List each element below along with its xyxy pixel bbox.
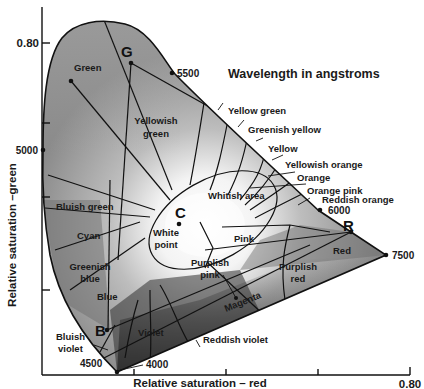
wavelength-4000: 4000 — [146, 359, 169, 370]
wavelength-4500: 4500 — [80, 358, 103, 369]
label-whitish-area: Whitish area — [208, 190, 265, 201]
wavelength-5500: 5500 — [177, 68, 200, 79]
label-pink: Pink — [234, 233, 255, 244]
point-C: C — [175, 204, 186, 221]
y-axis-label: Relative saturation –green — [6, 163, 18, 307]
label-yellowish-orange: Yellowish orange — [285, 159, 363, 170]
point-B: B — [95, 322, 106, 339]
label-white-point-2: point — [154, 239, 178, 250]
label-purplish-red-2: red — [291, 273, 306, 284]
label-orange: Orange — [297, 172, 330, 183]
chromaticity-diagram: 0.80 0.80 Relative saturation – red Rela… — [0, 0, 424, 389]
label-white-point-1: White — [153, 227, 179, 238]
x-tick-0-80: 0.80 — [399, 378, 421, 389]
label-bluish-green: Bluish green — [56, 201, 114, 212]
label-bluish-violet-2: violet — [58, 343, 84, 354]
label-greenish-blue-2: blue — [80, 273, 100, 284]
label-purplish-red-1: Purplish — [279, 261, 317, 272]
label-violet: Violet — [138, 327, 165, 338]
wavelength-6000: 6000 — [328, 205, 351, 216]
x-axis-label: Relative saturation – red — [133, 377, 267, 389]
legend-title: Wavelength in angstroms — [228, 67, 380, 81]
point-G: G — [121, 43, 133, 60]
label-reddish-violet: Reddish violet — [203, 334, 269, 345]
label-reddish-orange: Reddish orange — [322, 194, 394, 205]
point-R: R — [343, 217, 354, 234]
label-purplish-pink-1: Purplish — [191, 257, 229, 268]
label-bluish-violet-1: Bluish — [56, 331, 85, 342]
label-cyan: Cyan — [77, 230, 100, 241]
label-yellow-green: Yellow green — [228, 105, 286, 116]
wavelength-7500: 7500 — [392, 250, 415, 261]
label-greenish-yellow: Greenish yellow — [248, 124, 321, 135]
y-tick-0-80: 0.80 — [17, 37, 39, 49]
label-purplish-pink-2: pink — [200, 269, 220, 280]
label-red: Red — [333, 245, 351, 256]
label-yellowish-green-2: green — [143, 128, 169, 139]
label-yellowish-green-1: Yellowish — [134, 115, 177, 126]
label-green: Green — [74, 62, 102, 73]
label-blue: Blue — [97, 291, 118, 302]
label-greenish-blue-1: Greenish — [69, 261, 110, 272]
label-yellow: Yellow — [268, 143, 298, 154]
wavelength-5000: 5000 — [16, 145, 39, 156]
